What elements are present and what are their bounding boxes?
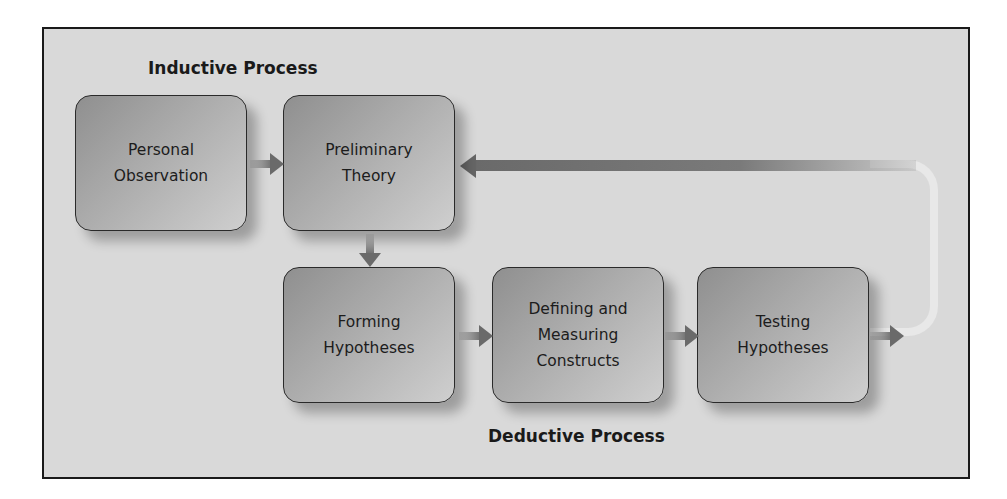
box-text-line: Preliminary <box>325 137 413 163</box>
box-text-line: Constructs <box>536 348 619 374</box>
feedback-arrow-head-icon <box>460 154 476 178</box>
arrow-constructs-to-testing <box>665 329 699 343</box>
box-defining-measuring-constructs: Defining and Measuring Constructs <box>492 267 664 403</box>
arrow-right-icon <box>685 325 699 347</box>
arrow-right-icon <box>479 325 493 347</box>
box-text-line: Hypotheses <box>737 335 828 361</box>
box-text-line: Defining and <box>528 296 627 322</box>
box-forming-hypotheses: Forming Hypotheses <box>283 267 455 403</box>
arrow-down-icon <box>359 253 381 267</box>
box-text-line: Forming <box>337 309 400 335</box>
box-text-line: Theory <box>342 163 396 189</box>
deductive-process-label: Deductive Process <box>488 426 665 446</box>
box-preliminary-theory: Preliminary Theory <box>283 95 455 231</box>
box-testing-hypotheses: Testing Hypotheses <box>697 267 869 403</box>
box-text-line: Hypotheses <box>323 335 414 361</box>
arrow-right-icon <box>890 325 904 347</box>
inductive-process-label: Inductive Process <box>148 58 318 78</box>
feedback-arrow-shaft <box>476 160 916 171</box>
feedback-loop-curve <box>870 160 938 336</box>
box-text-line: Observation <box>114 163 208 189</box>
box-text-line: Measuring <box>538 322 619 348</box>
arrow-right-icon <box>270 153 284 175</box>
arrow-theory-to-hypotheses <box>359 234 381 268</box>
box-text-line: Personal <box>128 137 194 163</box>
arrow-testing-out <box>870 329 904 343</box>
box-personal-observation: Personal Observation <box>75 95 247 231</box>
arrow-hypotheses-to-constructs <box>459 329 493 343</box>
box-text-line: Testing <box>756 309 811 335</box>
arrow-observation-to-theory <box>250 157 284 171</box>
